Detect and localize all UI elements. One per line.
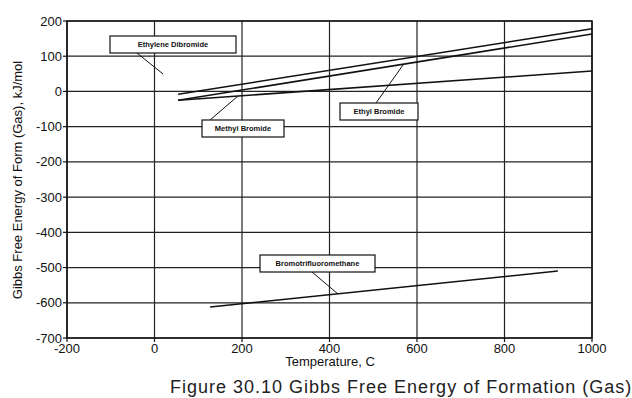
callout-text: Methyl Bromide [215,124,271,133]
series-line-bromotrifluoromethane [210,271,558,307]
y-tick-label: -100 [36,119,62,134]
x-axis-label: Temperature, C [285,354,375,369]
y-tick-label: -300 [36,190,62,205]
series-line-methyl-bromide [178,71,592,100]
y-tick-label: 100 [40,49,62,64]
callout-labels: Ethylene DibromideMethyl BromideEthyl Br… [110,36,418,294]
grid-lines [67,21,592,338]
x-tick-label: 1000 [578,341,607,356]
x-tick-label: 600 [406,341,428,356]
callout-text: Ethylene Dibromide [138,40,208,49]
series-line-ethylene-dibromide [178,29,592,95]
callout-methyl-bromide: Methyl Bromide [202,96,284,137]
callout-bromotrifluoromethane: Bromotrifluoromethane [260,255,375,294]
y-tick-labels: 2001000-100-200-300-400-500-600-700 [36,14,62,346]
y-tick-label: -200 [36,154,62,169]
callout-text: Ethyl Bromide [354,107,405,116]
y-tick-label: -600 [36,295,62,310]
axes [63,21,592,342]
y-tick-label: 200 [40,14,62,29]
figure-caption: Figure 30.10 Gibbs Free Energy of Format… [170,377,632,398]
callout-ethylene-dibromide: Ethylene Dibromide [110,36,236,74]
y-tick-label: -700 [36,331,62,346]
y-axis-label: Gibbs Free Energy of Form (Gas), kJ/mol [10,61,25,300]
y-tick-label: -500 [36,260,62,275]
data-series [178,29,592,307]
x-tick-label: 200 [231,341,253,356]
callout-text: Bromotrifluoromethane [276,259,360,268]
x-tick-label: 800 [494,341,516,356]
y-tick-label: 0 [55,84,62,99]
y-tick-label: -400 [36,225,62,240]
x-tick-label: 0 [151,341,158,356]
